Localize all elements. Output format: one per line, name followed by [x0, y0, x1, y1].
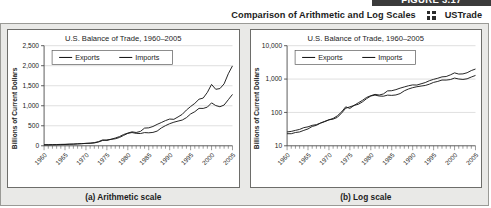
- series-line-exports-log: [287, 75, 475, 131]
- x-tick-label-log: 2005: [464, 151, 479, 166]
- x-tick-label-log: 1960: [275, 151, 290, 166]
- y-tick-label-arithmetic: 1,500: [23, 82, 40, 89]
- x-tick-label-log: 1995: [422, 151, 437, 166]
- series-line-exports-arithmetic: [44, 94, 232, 144]
- chart-caption-log: (b) Log scale: [250, 188, 483, 201]
- y-tick-label-arithmetic: 2,500: [23, 42, 40, 49]
- y-tick-label-log: 100: [271, 109, 282, 116]
- x-tick-label-log: 1975: [338, 151, 353, 166]
- x-tick-label-arithmetic: 2005: [221, 151, 236, 166]
- x-tick-label-log: 1990: [401, 151, 416, 166]
- x-tick-label-arithmetic: 1990: [159, 151, 174, 166]
- x-tick-label-arithmetic: 1985: [138, 151, 153, 166]
- dataset-icon: [427, 11, 436, 20]
- y-tick-label-log: 10,000: [261, 42, 282, 49]
- x-tick-label-arithmetic: 2000: [200, 151, 215, 166]
- plot-area-arithmetic: 05001,0001,5002,0002,5001960196519701975…: [8, 30, 239, 187]
- chart-card-arithmetic: U.S. Balance of Trade, 1960–2005 Billion…: [7, 29, 240, 188]
- x-tick-label-arithmetic: 1960: [33, 151, 48, 166]
- y-tick-label-log: 10: [274, 142, 282, 149]
- y-tick-label-arithmetic: 2,000: [23, 62, 40, 69]
- series-line-imports-log: [287, 69, 475, 134]
- x-tick-label-arithmetic: 1995: [179, 151, 194, 166]
- x-tick-label-arithmetic: 1975: [96, 151, 111, 166]
- chart-panel-arithmetic: U.S. Balance of Trade, 1960–2005 Billion…: [7, 29, 240, 201]
- y-tick-label-arithmetic: 1,000: [23, 102, 40, 109]
- figure-header-title: Comparison of Arithmetic and Log Scales: [231, 10, 415, 20]
- legend-label-imports-log: Imports: [378, 54, 402, 62]
- x-tick-label-log: 1980: [359, 151, 374, 166]
- figure-number-banner: FIGURE 3.17: [372, 0, 491, 6]
- x-tick-label-log: 1965: [296, 151, 311, 166]
- x-tick-label-arithmetic: 1965: [54, 151, 69, 166]
- dataset-label: USTrade: [445, 10, 482, 20]
- y-tick-label-arithmetic: 500: [28, 122, 39, 129]
- chart-panel-log: U.S. Balance of Trade, 1960–2005 Billion…: [250, 29, 483, 201]
- x-tick-label-arithmetic: 1970: [75, 151, 90, 166]
- chart-caption-arithmetic: (a) Arithmetic scale: [7, 188, 240, 201]
- figure-header: Comparison of Arithmetic and Log Scales …: [0, 8, 491, 22]
- legend-label-exports-arithmetic: Exports: [75, 54, 100, 62]
- x-tick-label-log: 1970: [317, 151, 332, 166]
- legend-label-imports-arithmetic: Imports: [135, 54, 159, 62]
- y-tick-label-log: 1,000: [265, 75, 282, 82]
- chart-card-log: U.S. Balance of Trade, 1960–2005 Billion…: [250, 29, 483, 188]
- x-tick-label-log: 1985: [380, 151, 395, 166]
- plot-area-log: 101001,00010,000196019651970197519801985…: [251, 30, 482, 187]
- figure-panel: U.S. Balance of Trade, 1960–2005 Billion…: [0, 23, 489, 206]
- x-tick-label-log: 2000: [443, 151, 458, 166]
- legend-label-exports-log: Exports: [318, 54, 343, 62]
- x-tick-label-arithmetic: 1980: [117, 151, 132, 166]
- y-tick-label-arithmetic: 0: [35, 142, 39, 149]
